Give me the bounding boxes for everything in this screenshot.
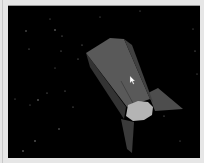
3d-viewport-canvas[interactable] [8,5,200,158]
window-frame-edge [2,0,3,163]
scene-svg [8,6,200,158]
